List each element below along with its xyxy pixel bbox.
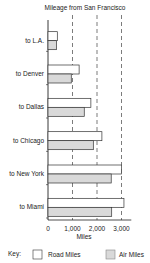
x-tick-label: 3,000 (113, 225, 130, 232)
category-label: to New York (9, 170, 44, 177)
bar-road-1 (48, 65, 79, 74)
category-label: to Dallas (19, 103, 45, 110)
category-label: to Chicago (13, 137, 44, 145)
chart-title: Mileage from San Francisco (45, 4, 126, 12)
legend-swatch-air-miles (106, 250, 115, 259)
bar-road-5 (48, 198, 124, 207)
bar-air-5 (48, 207, 112, 216)
bar-road-0 (48, 32, 57, 41)
bar-air-4 (48, 174, 111, 183)
bar-road-2 (48, 98, 91, 107)
bar-road-4 (48, 165, 122, 174)
legend-label-air-miles: Air Miles (119, 251, 145, 258)
x-tick-label: 2,000 (89, 225, 106, 232)
x-axis-label: Miles (76, 233, 92, 240)
category-label: to Miami (19, 203, 44, 210)
bar-chart: Mileage from San Francisco to L.A.to Den… (0, 0, 150, 263)
bar-air-1 (48, 74, 71, 83)
legend-swatch-road-miles (33, 250, 42, 259)
category-label: to Denver (16, 70, 45, 77)
category-label: to L.A. (25, 37, 44, 44)
bar-road-3 (48, 132, 102, 141)
legend-title: Key: (8, 250, 21, 258)
bar-air-0 (48, 41, 57, 50)
legend-label-road-miles: Road Miles (48, 251, 81, 258)
bar-air-2 (48, 107, 84, 116)
x-tick-label: 1,000 (64, 225, 81, 232)
x-tick-label: 0 (46, 225, 50, 232)
bar-air-3 (48, 141, 93, 150)
